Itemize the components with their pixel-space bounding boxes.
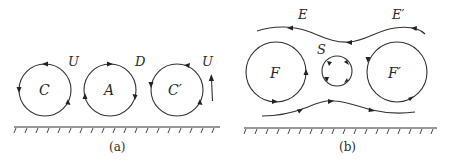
vortex-f-prime: F′	[366, 42, 428, 102]
caption-b: (b)	[339, 140, 356, 154]
arrow-left-icon	[42, 62, 48, 67]
arrow-right-icon	[297, 109, 303, 114]
vortex-f: F	[246, 42, 309, 104]
label-e: E	[297, 7, 308, 22]
vortex-diagram-figure: C A C′	[0, 0, 449, 161]
arrow-left-icon	[411, 26, 417, 31]
vortex-c-prime-label: C′	[168, 82, 183, 98]
vortex-a-label: A	[102, 82, 114, 98]
arrow-right-icon	[408, 96, 414, 101]
label-s: S	[317, 42, 326, 57]
vortex-f-label: F	[269, 65, 281, 81]
vortex-c-label: C	[39, 82, 50, 98]
label-e-prime: E′	[391, 7, 404, 22]
vortex-c: C	[17, 62, 72, 117]
arrow-right-icon	[328, 99, 334, 104]
arrow-left-icon	[346, 40, 352, 45]
arrow-right-icon	[107, 62, 113, 67]
arrow-left-icon	[287, 26, 293, 31]
vortex-s-circle	[322, 56, 352, 86]
vortex-a: A	[83, 62, 138, 117]
panel-b: E E′ F S	[244, 7, 437, 154]
label-upwash-1: U	[68, 54, 80, 69]
arrow-right-icon	[272, 99, 278, 104]
upward-flow-arrow-icon	[209, 74, 214, 101]
vortex-c-prime: C′	[149, 63, 204, 116]
caption-a: (a)	[109, 140, 126, 154]
arrow-down-icon	[149, 82, 154, 88]
arrow-down-icon	[133, 94, 138, 100]
wall-a	[14, 127, 220, 133]
arrow-down-icon	[17, 87, 22, 93]
arrow-up-icon	[198, 99, 203, 105]
label-upwash-2: U	[202, 54, 214, 69]
arrow-up-icon	[304, 69, 309, 75]
label-downwash: D	[134, 54, 146, 69]
wall-hatching	[244, 129, 433, 134]
panel-a: C A C′	[14, 54, 220, 154]
wall-hatching	[14, 128, 214, 133]
arrow-up-icon	[83, 93, 88, 99]
vortex-s	[322, 56, 352, 86]
wall-b	[244, 128, 437, 134]
vortex-f-prime-label: F′	[387, 65, 402, 81]
arrow-right-icon	[369, 108, 376, 113]
arrow-icon	[327, 61, 332, 66]
arrow-up-icon	[66, 99, 71, 105]
arrow-left-icon	[184, 63, 190, 68]
